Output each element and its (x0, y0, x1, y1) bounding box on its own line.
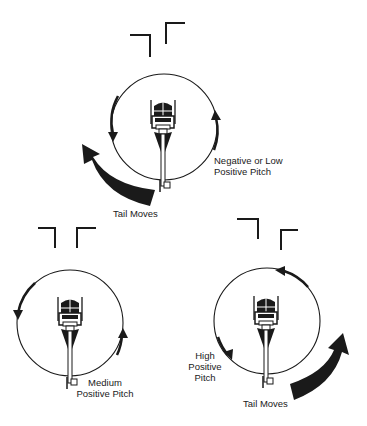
helicopter-icon (254, 296, 278, 388)
pitch-label-bottom-left: Medium Positive Pitch (71, 377, 139, 399)
pitch-label-line: Positive Pitch (71, 388, 139, 399)
bracket-right-icon (166, 23, 185, 44)
bracket-right-icon (281, 230, 298, 250)
pitch-label-line: Positive Pitch (214, 166, 283, 177)
rotation-arrow-down-icon (13, 310, 23, 320)
pitch-label-line: Medium (71, 377, 139, 388)
pitch-label-line: Positive (183, 361, 227, 372)
pitch-diagram: Negative or Low Positive Pitch Tail Move… (0, 0, 367, 426)
panel-bottom-right (214, 219, 349, 400)
panel-bottom-left (13, 228, 128, 389)
pitch-label-line: High (183, 350, 227, 361)
rotation-arrow-left-icon (275, 266, 285, 276)
rotation-arrow-up-icon (118, 328, 128, 338)
bracket-left-icon (237, 219, 258, 239)
tail-moves-label-bottom-right: Tail Moves (243, 398, 288, 409)
helicopter-icon (151, 100, 175, 192)
rotation-arrow-down-icon (108, 132, 118, 142)
rotation-arrow-up-icon (211, 110, 221, 120)
bracket-right-icon (77, 228, 96, 248)
panel-top (82, 23, 221, 206)
tail-movement-arrow-icon (290, 333, 349, 400)
pitch-label-top: Negative or Low Positive Pitch (214, 155, 283, 177)
pitch-label-bottom-right: High Positive Pitch (183, 350, 227, 383)
pitch-label-line: Negative or Low (214, 155, 283, 166)
bracket-left-icon (130, 35, 150, 57)
tail-moves-label-top: Tail Moves (113, 208, 158, 219)
bracket-left-icon (38, 228, 55, 248)
pitch-label-line: Pitch (183, 372, 227, 383)
